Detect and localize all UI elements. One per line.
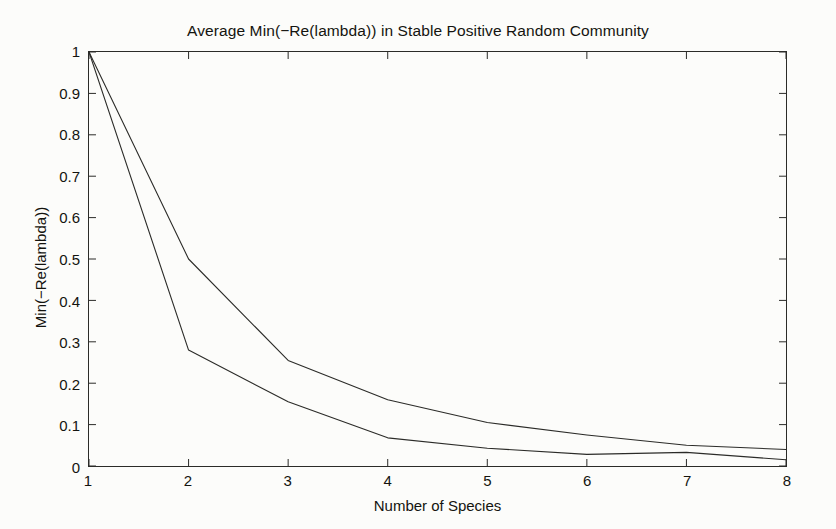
x-tick-label: 6: [583, 472, 591, 489]
y-tick-label: 0.5: [59, 251, 80, 268]
y-tick-label: 0.1: [59, 417, 80, 434]
x-tick-label: 3: [284, 472, 292, 489]
y-tick-label: 0.2: [59, 375, 80, 392]
chart-title: Average Min(−Re(lambda)) in Stable Posit…: [0, 22, 836, 40]
y-tick-label: 0.4: [59, 292, 80, 309]
y-tick-label: 0.6: [59, 209, 80, 226]
y-tick-label: 0.9: [59, 84, 80, 101]
y-tick-label: 0.8: [59, 126, 80, 143]
x-tick-label: 5: [483, 472, 491, 489]
y-axis-label: Min(−Re(lambda)): [32, 138, 49, 398]
x-tick-label: 7: [683, 472, 691, 489]
figure-canvas: Average Min(−Re(lambda)) in Stable Posit…: [0, 0, 836, 529]
curves-svg: [89, 52, 786, 466]
x-tick-label: 8: [783, 472, 791, 489]
x-axis-label: Number of Species: [88, 497, 787, 514]
y-tick-label: 1: [72, 43, 80, 60]
x-tick-label: 4: [383, 472, 391, 489]
data-series-upper-curve: [89, 52, 786, 449]
y-tick-label: 0: [72, 459, 80, 476]
y-tick-label: 0.7: [59, 167, 80, 184]
plot-area: [88, 51, 787, 467]
data-series-lower-curve: [89, 52, 786, 460]
x-tick-label: 2: [184, 472, 192, 489]
x-tick-label: 1: [84, 472, 92, 489]
y-tick-label: 0.3: [59, 334, 80, 351]
